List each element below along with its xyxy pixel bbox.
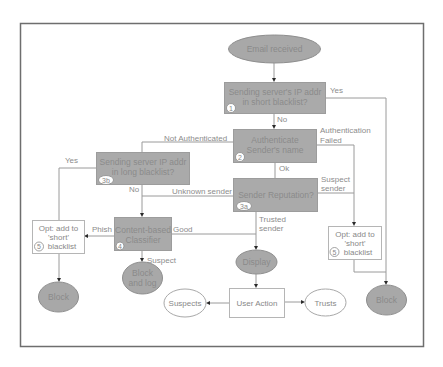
- node-opt-add-short-blacklist-right: Opt: add to 'short' blacklist 5: [329, 227, 382, 260]
- badge-1-text: 1: [229, 105, 233, 112]
- block-log-line1: Block: [132, 268, 154, 278]
- node-step-1: Sending server's IP addr in short blackl…: [225, 83, 326, 114]
- arrowhead: [140, 258, 144, 262]
- trusts-label: Trusts: [315, 299, 337, 308]
- arrowhead: [140, 213, 144, 217]
- badge-2-text: 2: [238, 154, 242, 161]
- step3b-line2: in long blacklist?: [112, 167, 175, 177]
- block-left-label: Block: [48, 292, 70, 302]
- opt-right-line3: blacklist: [344, 248, 373, 257]
- step2-line1: Authenticate: [251, 135, 299, 145]
- label-trusted-sender-2: sender: [259, 224, 284, 233]
- step1-line2: in short blacklist?: [242, 97, 307, 107]
- display-label: Display: [243, 257, 272, 267]
- step2-line2: Sender's name: [247, 145, 304, 155]
- label-ok: Ok: [279, 164, 290, 173]
- step3a-label: Sender Reputation?: [238, 190, 314, 200]
- block-right-label: Block: [376, 295, 398, 305]
- node-user-action: User Action: [230, 289, 285, 318]
- opt-left-line2: 'short': [48, 233, 69, 242]
- node-email-received: Email received: [229, 35, 321, 63]
- label-auth-failed-1: Authentication: [320, 126, 371, 135]
- label-phish: Phish: [92, 225, 112, 234]
- badge-3b-text: 3b: [102, 177, 110, 184]
- badge-5-left-text: 5: [37, 243, 41, 250]
- label-no-3b: No: [129, 185, 140, 194]
- node-step-3a: Sender Reputation? 3a: [234, 179, 318, 212]
- badge-3a-text: 3a: [240, 203, 248, 210]
- arrowhead: [272, 125, 276, 129]
- edge-3b-yes: [59, 168, 96, 220]
- node-step-2: Authenticate Sender's name 2: [234, 130, 317, 163]
- diagram-frame: [21, 24, 424, 347]
- arrowhead: [254, 284, 258, 288]
- step1-line1: Sending server's IP addr: [229, 87, 322, 97]
- arrowhead: [57, 278, 61, 282]
- block-log-line2: and log: [129, 278, 157, 288]
- opt-right-line1: Opt: add to: [335, 230, 375, 239]
- step3b-line1: Sending server IP addr: [100, 157, 187, 167]
- suspects-label: Suspects: [169, 299, 202, 308]
- label-trusted-sender-1: Trusted: [259, 215, 286, 224]
- label-auth-failed-2: Failed: [320, 136, 342, 145]
- arrowhead: [352, 222, 356, 226]
- label-unknown-sender: Unknown sender: [172, 187, 232, 196]
- node-step-3b: Sending server IP addr in long blacklist…: [97, 153, 190, 185]
- label-suspect-sender-2: sender: [321, 184, 346, 193]
- label-suspect-sender-1: Suspect: [321, 175, 351, 184]
- node-step-4: Content-based Classifier 4: [115, 218, 172, 251]
- edge-not-authenticated: [142, 142, 233, 152]
- label-not-authenticated: Not Authenticated: [164, 134, 227, 143]
- arrowhead: [272, 78, 276, 82]
- node-suspects: Suspects: [164, 289, 206, 317]
- arrowhead: [254, 246, 258, 250]
- node-trusts: Trusts: [305, 289, 346, 316]
- edge-opt-right-block: [354, 259, 386, 272]
- step4-line2: Classifier: [126, 235, 161, 245]
- opt-right-line2: 'short': [345, 239, 366, 248]
- email-filtering-flowchart: Yes No Not Authenticated Authentication …: [0, 0, 443, 367]
- arrowhead: [301, 300, 305, 304]
- node-opt-add-short-blacklist-left: Opt: add to 'short' blacklist 5: [33, 221, 85, 254]
- step4-line1: Content-based: [115, 225, 171, 235]
- user-action-label: User Action: [237, 299, 278, 308]
- arrowhead: [384, 281, 388, 285]
- badge-4-text: 4: [118, 243, 122, 250]
- label-yes-1: Yes: [330, 86, 343, 95]
- node-block-left: Block: [39, 282, 79, 312]
- arrowhead: [206, 301, 210, 305]
- node-block-right: Block: [367, 285, 407, 315]
- opt-left-line1: Opt: add to: [39, 224, 79, 233]
- node-block-and-log: Block and log: [123, 262, 163, 294]
- label-no-1: No: [277, 115, 288, 124]
- label-yes-3b: Yes: [65, 156, 78, 165]
- start-label: Email received: [247, 44, 303, 54]
- badge-5-right-text: 5: [333, 249, 337, 256]
- label-good: Good: [173, 225, 193, 234]
- node-display: Display: [236, 250, 277, 274]
- opt-left-line3: blacklist: [48, 242, 77, 251]
